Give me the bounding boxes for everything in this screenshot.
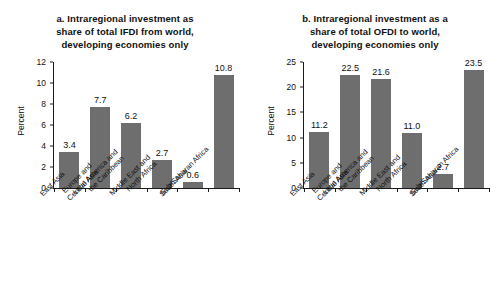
panel-a-title-line1: a. Intraregional investment as (14, 12, 236, 25)
panel-a-xtick-mark (239, 188, 240, 192)
panel-b-xtick-mark (427, 188, 428, 192)
bar-value-label: 2.7 (156, 148, 169, 158)
panel-a-axis-area: 024681012 3.47.76.22.70.610.8 East AsiaE… (28, 62, 242, 196)
chart-panel-b: b. Intraregional investment as a share o… (250, 0, 500, 290)
panel-a-y-axis-label-text: Percent (16, 106, 26, 135)
panel-a-y-axis-label: Percent (14, 56, 28, 186)
bar-value-label: 7.7 (94, 95, 107, 105)
panel-b-y-axis-label: Percent (264, 56, 278, 186)
panel-b-ytick-label: 15 (287, 107, 296, 117)
panel-b-ytick-label: 25 (287, 57, 296, 67)
panel-a-title-line2: share of total IFDI from world, (14, 25, 236, 38)
panel-a-y-axis-ticks: 024681012 (28, 62, 50, 188)
panel-a-xtick-mark (116, 188, 117, 192)
bar-value-label: 6.2 (125, 111, 138, 121)
panel-a-ytick-label: 12 (37, 57, 46, 67)
bar[interactable] (464, 70, 484, 188)
bar[interactable] (214, 75, 234, 188)
bar-value-label: 10.8 (215, 63, 233, 73)
chart-panel-a: a. Intraregional investment as share of … (0, 0, 250, 290)
panel-b-ytick-label: 10 (287, 133, 296, 143)
panel-b-xtick-mark (304, 188, 305, 192)
panel-a-plot-wrap: Percent 024681012 3.47.76.22.70.610.8 Ea… (0, 56, 250, 290)
panel-a-xtick-mark (54, 188, 55, 192)
panel-a-title: a. Intraregional investment as share of … (0, 0, 250, 54)
bar-value-label: 11.2 (311, 120, 328, 130)
bar-value-label: 3.4 (63, 140, 76, 150)
bar-value-label: 22.5 (341, 63, 359, 73)
panel-a-xtick-mark (177, 188, 178, 192)
panel-b-ytick-label: 20 (287, 82, 296, 92)
panel-a-xtick-mark (85, 188, 86, 192)
panel-b-plot-wrap: Percent 0510152025 11.222.521.611.02.723… (250, 56, 500, 290)
panel-b-y-axis-ticks: 0510152025 (278, 62, 300, 188)
panel-b-title-line3: developing economies only (264, 38, 486, 51)
panel-b-title-line2: share of total OFDI to world, (264, 25, 486, 38)
panel-b-xtick-mark (335, 188, 336, 192)
panel-b-ytick-label: 5 (291, 158, 296, 168)
bar-value-label: 23.5 (465, 58, 483, 68)
panel-a-title-line3: developing economies only (14, 38, 236, 51)
panel-a-ytick-label: 2 (41, 162, 46, 172)
bar-value-label: 21.6 (372, 67, 390, 77)
bar-value-label: 11.0 (403, 121, 420, 131)
panel-b-xtick-mark (489, 188, 490, 192)
panel-b-xtick-mark (397, 188, 398, 192)
panel-b-title: b. Intraregional investment as a share o… (250, 0, 500, 54)
bar-group[interactable]: 10.8 (208, 62, 239, 188)
panel-a-ytick-label: 6 (41, 120, 46, 130)
panel-a-xtick-mark (147, 188, 148, 192)
panel-b-xtick-mark (366, 188, 367, 192)
panel-b-axis-area: 0510152025 11.222.521.611.02.723.5 East … (278, 62, 492, 196)
panel-b-x-axis-labels: East AsiaEurope andCentral AsiaLatin Ame… (304, 195, 500, 290)
panel-a-xtick-mark (208, 188, 209, 192)
panel-a-x-axis-labels: East AsiaEurope andCentral AsiaLatin Ame… (54, 195, 254, 290)
bar-group[interactable]: 23.5 (458, 62, 489, 188)
panel-a-ytick-label: 8 (41, 99, 46, 109)
panel-a-ytick-label: 4 (41, 141, 46, 151)
bar[interactable] (183, 182, 203, 188)
panel-b-xtick-mark (458, 188, 459, 192)
figure-two-panel-bar-charts: a. Intraregional investment as share of … (0, 0, 500, 290)
panel-b-title-line1: b. Intraregional investment as a (264, 12, 486, 25)
panel-b-y-axis-label-text: Percent (266, 106, 276, 135)
panel-a-ytick-label: 10 (37, 78, 46, 88)
